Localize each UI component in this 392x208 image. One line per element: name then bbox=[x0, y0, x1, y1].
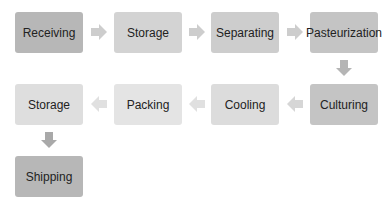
arrow-down-icon bbox=[336, 60, 352, 76]
step-packing: Packing bbox=[114, 84, 182, 125]
arrow-down-icon bbox=[41, 132, 57, 148]
step-storage-2: Storage bbox=[15, 84, 83, 125]
arrow-left-icon bbox=[287, 96, 303, 112]
arrow-right-icon bbox=[91, 24, 107, 40]
step-pasteurization: Pasteurization bbox=[310, 12, 378, 53]
arrow-right-icon bbox=[287, 24, 303, 40]
step-culturing: Culturing bbox=[310, 84, 378, 125]
step-storage-1: Storage bbox=[114, 12, 182, 53]
arrow-left-icon bbox=[189, 96, 205, 112]
arrow-right-icon bbox=[189, 24, 205, 40]
step-separating: Separating bbox=[211, 12, 279, 53]
step-shipping: Shipping bbox=[15, 156, 83, 197]
arrow-left-icon bbox=[91, 96, 107, 112]
step-receiving: Receiving bbox=[15, 12, 83, 53]
step-cooling: Cooling bbox=[211, 84, 279, 125]
